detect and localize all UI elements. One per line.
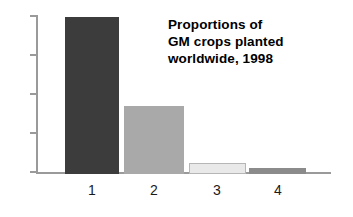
chart-title-line-3: worldwide, 1998 xyxy=(168,50,348,67)
x-axis-label-4: 4 xyxy=(258,182,298,198)
chart-title: Proportions of GM crops planted worldwid… xyxy=(168,16,348,67)
bar-chart-figure: 1 2 3 4 Proportions of GM crops planted … xyxy=(0,0,353,217)
chart-title-line-1: Proportions of xyxy=(168,16,348,33)
bar-category-4 xyxy=(249,168,306,174)
x-axis-label-2: 2 xyxy=(134,182,174,198)
bar-category-2 xyxy=(124,106,184,174)
bar-category-3 xyxy=(189,163,246,174)
y-axis-tick xyxy=(30,93,38,95)
y-axis-tick xyxy=(30,132,38,134)
chart-title-line-2: GM crops planted xyxy=(168,33,348,50)
x-axis-label-1: 1 xyxy=(72,182,112,198)
y-axis-tick xyxy=(30,54,38,56)
y-axis-tick xyxy=(30,15,38,17)
y-axis-tick xyxy=(30,171,38,173)
x-axis-label-3: 3 xyxy=(197,182,237,198)
bar-category-1 xyxy=(65,17,119,174)
